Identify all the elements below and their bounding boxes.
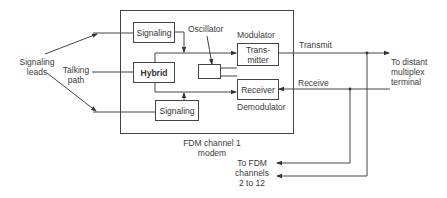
receive-label: Receive <box>298 78 329 88</box>
modem-caption: FDM channel 1 modem <box>172 138 252 158</box>
signaling-top-label: Signaling <box>137 28 172 38</box>
oscillator-block <box>198 64 221 79</box>
modulator-label: Modulator <box>237 30 275 40</box>
transmit-branch-line <box>277 53 367 176</box>
signaling-leads-label: Signaling leads <box>17 57 57 77</box>
hybrid-receiver-line <box>155 82 236 92</box>
talking-path-label: Talking path <box>60 65 92 85</box>
signaling-top-block: Signaling <box>133 22 175 43</box>
transmitter-label-2: mitter <box>247 55 268 65</box>
transmit-label: Transmit <box>299 40 332 50</box>
oscillator-pointer <box>207 36 212 64</box>
hybrid-block: Hybrid <box>133 62 175 83</box>
signaling-bottom-label: Signaling <box>160 106 195 116</box>
demodulator-label: Demodulator <box>237 102 286 112</box>
receiver-block: Receiver <box>237 79 279 100</box>
receiver-label: Receiver <box>241 85 275 95</box>
transmitter-block: Trans- mitter <box>237 43 279 66</box>
transmitter-label-1: Trans- <box>246 45 270 55</box>
oscillator-label: Oscillator <box>188 24 223 34</box>
signaling-bottom-block: Signaling <box>155 100 199 121</box>
receive-branch-line <box>277 89 350 163</box>
hybrid-to-transmitter-line <box>155 53 236 62</box>
signaling-to-transmit-line <box>174 32 184 52</box>
fdm-channels-label: To FDM channels 2 to 12 <box>232 158 272 188</box>
hybrid-label: Hybrid <box>141 68 168 78</box>
distant-terminal-label: To distant multiplex terminal <box>391 57 427 87</box>
signaling-lead-arrow-top <box>45 34 97 54</box>
diagram-lines <box>0 0 447 198</box>
